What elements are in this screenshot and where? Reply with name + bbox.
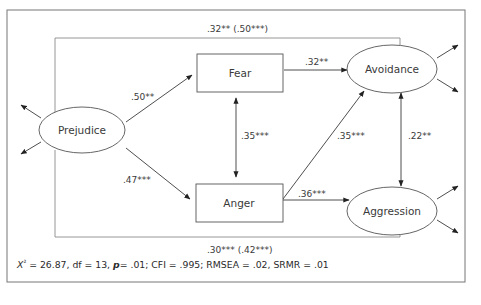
fit-indices: = .01; CFI = .995; RMSEA = .02, SRMR = .… — [120, 259, 329, 270]
node-anger-label: Anger — [223, 197, 255, 209]
arrow-prejudice-anger — [126, 148, 190, 199]
prejudice-anger-label: .47*** — [123, 175, 151, 185]
anger-avoidance-label: .35*** — [337, 131, 365, 141]
node-prejudice: Prejudice — [39, 107, 125, 153]
fear-anger-label: .35*** — [241, 131, 269, 141]
aggression-indicator-arrow-down — [437, 220, 458, 233]
node-avoidance-label: Avoidance — [365, 63, 419, 75]
prejudice-fear-label: .50** — [131, 92, 155, 102]
path-diagram: .32** (.50***) .30*** (.42***) .50** .47… — [0, 0, 481, 305]
node-avoidance: Avoidance — [347, 45, 437, 93]
avoidance-aggression-label: .22** — [408, 131, 432, 141]
direct-effect-aggression-label: .30*** (.42***) — [207, 245, 273, 255]
avoidance-indicator-arrow-up — [437, 45, 458, 58]
fear-avoidance-label: .32** — [305, 57, 329, 67]
arrow-anger-avoidance — [283, 91, 364, 199]
direct-effect-avoidance-label: .32** (.50***) — [207, 24, 268, 34]
node-anger: Anger — [196, 184, 283, 222]
node-aggression: Aggression — [347, 187, 437, 235]
prejudice-indicator-arrow-down — [21, 142, 41, 154]
anger-aggression-label: .36*** — [298, 189, 326, 199]
avoidance-indicator-arrow-down — [437, 79, 458, 92]
prejudice-indicator-arrow-up — [21, 105, 41, 118]
node-aggression-label: Aggression — [363, 205, 421, 217]
fit-statistics: X² = 26.87, df = 13, p= .01; CFI = .995;… — [16, 259, 329, 270]
aggression-indicator-arrow-up — [437, 186, 458, 199]
node-prejudice-label: Prejudice — [58, 124, 106, 136]
node-fear-label: Fear — [229, 67, 252, 79]
chi-square-value: = 26.87, df = 13, — [26, 259, 113, 270]
node-fear: Fear — [197, 54, 283, 92]
